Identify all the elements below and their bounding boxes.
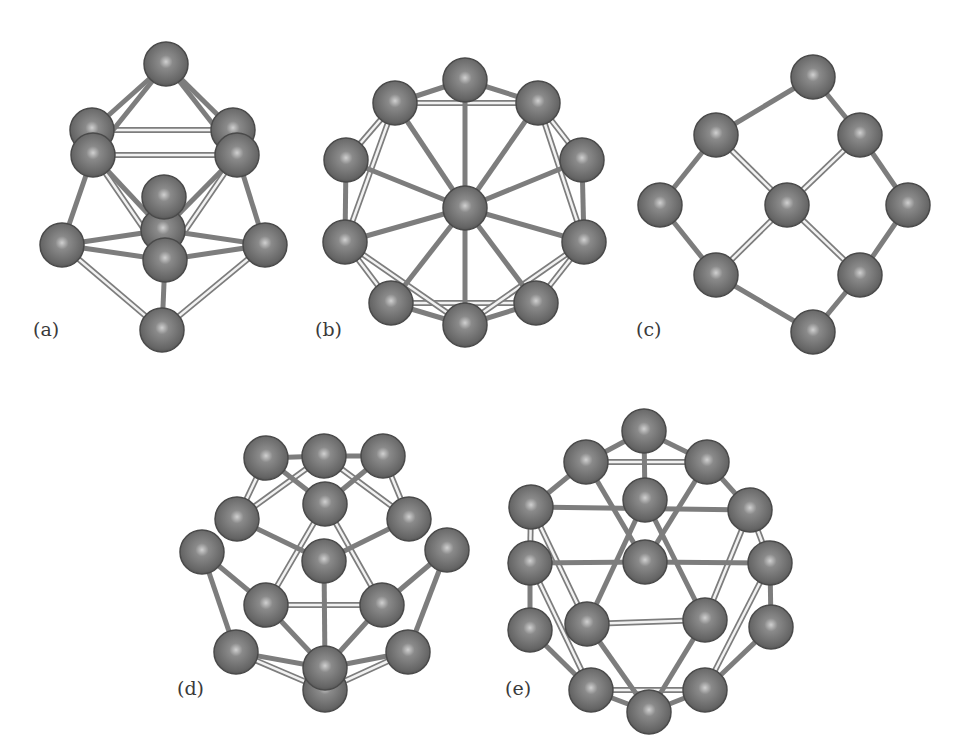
atom-sphere	[516, 81, 560, 125]
atom-sphere	[838, 253, 882, 297]
atom-sphere	[749, 605, 793, 649]
atom-sphere	[748, 541, 792, 585]
atom-sphere	[303, 646, 347, 690]
atom-sphere	[40, 223, 84, 267]
atom-sphere	[791, 55, 835, 99]
atom-sphere	[565, 602, 609, 646]
atom-sphere	[387, 497, 431, 541]
atom-sphere	[243, 223, 287, 267]
atom-sphere	[765, 183, 809, 227]
atom-sphere	[71, 133, 115, 177]
atom-sphere	[560, 138, 604, 182]
atom-sphere	[694, 253, 738, 297]
atom-sphere	[638, 183, 682, 227]
atom-sphere	[180, 530, 224, 574]
atom-sphere	[694, 113, 738, 157]
panel-label-a: (a)	[33, 318, 59, 340]
atom-sphere	[622, 409, 666, 453]
atom-sphere	[514, 281, 558, 325]
panel-c	[638, 55, 930, 354]
atom-sphere	[214, 630, 258, 674]
panel-e	[508, 409, 793, 734]
atom-sphere	[215, 133, 259, 177]
atom-sphere	[302, 539, 346, 583]
atom-sphere	[623, 540, 667, 584]
atom-sphere	[791, 310, 835, 354]
panel-label-e: (e)	[505, 677, 531, 699]
atom-sphere	[302, 434, 346, 478]
atom-sphere	[728, 488, 772, 532]
atom-sphere	[323, 220, 367, 264]
atom-sphere	[627, 690, 671, 734]
panel-a	[40, 42, 287, 352]
atom-sphere	[508, 541, 552, 585]
atom-sphere	[838, 113, 882, 157]
atom-sphere	[443, 303, 487, 347]
atom-sphere	[569, 668, 613, 712]
panel-b	[323, 58, 606, 347]
atom-sphere	[562, 220, 606, 264]
panel-label-b: (b)	[315, 318, 342, 340]
atom-sphere	[369, 281, 413, 325]
atom-sphere	[142, 175, 186, 219]
figure-canvas	[0, 0, 966, 741]
atom-sphere	[244, 436, 288, 480]
atom-sphere	[509, 485, 553, 529]
atom-sphere	[683, 598, 727, 642]
atom-sphere	[685, 440, 729, 484]
atom-sphere	[324, 138, 368, 182]
panel-label-c: (c)	[636, 318, 661, 340]
atom-sphere	[360, 583, 404, 627]
atom-sphere	[564, 440, 608, 484]
cluster-structures-figure: (a) (b) (c) (d) (e)	[0, 0, 966, 741]
atom-sphere	[361, 434, 405, 478]
atom-sphere	[303, 482, 347, 526]
atom-sphere	[244, 583, 288, 627]
atom-sphere	[386, 630, 430, 674]
atom-sphere	[443, 186, 487, 230]
atom-sphere	[443, 58, 487, 102]
atom-sphere	[215, 497, 259, 541]
atom-sphere	[144, 42, 188, 86]
atom-sphere	[508, 608, 552, 652]
atom-sphere	[683, 668, 727, 712]
panel-label-d: (d)	[177, 677, 204, 699]
panel-d	[180, 434, 469, 712]
atom-sphere	[373, 81, 417, 125]
atom-sphere	[886, 183, 930, 227]
atom-sphere	[140, 308, 184, 352]
atom-sphere	[425, 528, 469, 572]
atom-sphere	[623, 478, 667, 522]
atom-sphere	[143, 238, 187, 282]
